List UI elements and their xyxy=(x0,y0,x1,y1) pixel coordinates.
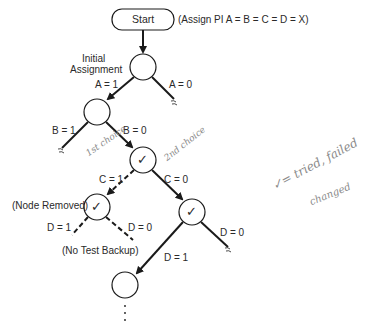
edge-label-d1-left: D = 1 xyxy=(47,222,71,233)
check-node3: ✓ xyxy=(137,153,148,167)
node-a1 xyxy=(84,99,110,125)
edge-label-d0-right: D = 0 xyxy=(220,227,244,238)
edge-label-a0: A = 0 xyxy=(169,79,192,90)
edge-label-c1: C = 1 xyxy=(99,174,123,185)
initial-label-line1: Initial xyxy=(82,53,105,64)
initial-label-line2: Assignment xyxy=(70,64,122,75)
edge-label-b1: B = 1 xyxy=(52,125,76,136)
node-d1 xyxy=(112,272,138,298)
check-node5: ✓ xyxy=(186,205,197,219)
start-label: Start xyxy=(132,14,154,25)
node-removed-label: (Node Removed) xyxy=(12,200,88,211)
edge-label-c0: C = 0 xyxy=(164,174,188,185)
initial-node xyxy=(130,54,156,80)
check-node4: ✓ xyxy=(91,200,102,214)
start-note: (Assign PI A = B = C = D = X) xyxy=(178,14,309,25)
edge-label-a1: A = 1 xyxy=(95,79,118,90)
edge-label-d0-left: D = 0 xyxy=(128,222,152,233)
no-test-backup-label: (No Test Backup) xyxy=(62,245,139,256)
decision-tree-graphic xyxy=(0,0,384,333)
edge-label-d1-right: D = 1 xyxy=(164,252,188,263)
